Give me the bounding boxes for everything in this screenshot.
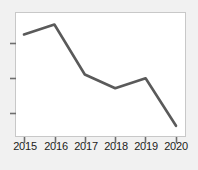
- x-tick-label-2017: 2017: [74, 140, 98, 152]
- x-tick-label-2020: 2020: [164, 140, 188, 152]
- x-tick-label-2016: 2016: [44, 140, 68, 152]
- x-tick-label-2018: 2018: [104, 140, 128, 152]
- x-tick-label-2019: 2019: [134, 140, 158, 152]
- plot-area: [15, 12, 186, 137]
- line-chart: 2015 2016 2017 2018 2019 2020: [0, 0, 198, 170]
- x-tick-label-2015: 2015: [13, 140, 37, 152]
- x-axis-tick-labels: 2015 2016 2017 2018 2019 2020: [15, 140, 187, 158]
